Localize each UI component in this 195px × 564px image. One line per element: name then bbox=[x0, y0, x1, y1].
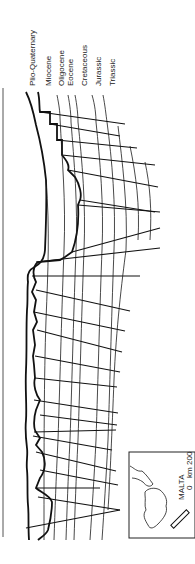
legend-plio-quaternary: Plio-Quaternary bbox=[28, 30, 37, 86]
scale-unit-label: km bbox=[185, 467, 194, 478]
inset-map: MALTA 0 km 200 bbox=[129, 451, 195, 538]
scale-end-label: 200 bbox=[185, 451, 194, 465]
legend-oligocene: Oligocene bbox=[57, 49, 66, 86]
scale-start-label: 0 bbox=[185, 485, 194, 490]
legend-jurassic: Jurassic bbox=[94, 57, 103, 86]
geological-cross-section: Plio-Quaternary Miocene Oligocene Eocene… bbox=[0, 0, 195, 564]
legend-miocene: Miocene bbox=[44, 55, 53, 86]
legend-triassic: Triassic bbox=[108, 59, 117, 86]
legend: Plio-Quaternary Miocene Oligocene Eocene… bbox=[28, 30, 117, 86]
legend-cretaceous: Cretaceous bbox=[80, 45, 89, 86]
legend-eocene: Eocene bbox=[66, 58, 75, 86]
